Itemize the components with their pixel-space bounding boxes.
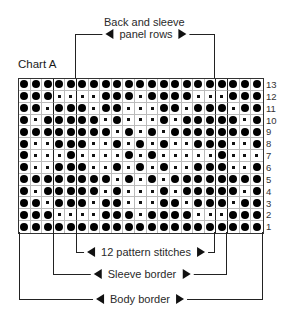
filled-circle-icon — [90, 116, 98, 124]
dash-icon — [34, 166, 37, 169]
filled-circle-icon — [241, 199, 249, 207]
stitch-cell — [205, 209, 217, 221]
arrow-left-icon — [105, 29, 113, 39]
stitch-cell — [193, 91, 205, 103]
filled-circle-icon — [125, 80, 133, 88]
filled-circle-icon — [102, 128, 110, 136]
stitch-cell — [42, 197, 54, 209]
filled-circle-icon — [148, 175, 156, 183]
stitch-cell — [100, 162, 112, 174]
stitch-cell — [123, 138, 135, 150]
stitch-cell — [205, 126, 217, 138]
dash-icon — [92, 154, 95, 157]
dash-icon — [104, 190, 107, 193]
filled-circle-icon — [125, 211, 133, 219]
dash-icon — [34, 118, 37, 121]
filled-circle-icon — [148, 151, 156, 159]
stitch-cell — [158, 150, 170, 162]
dash-icon — [34, 190, 37, 193]
filled-circle-icon — [171, 175, 179, 183]
stitch-cell — [193, 103, 205, 115]
filled-circle-icon — [218, 151, 226, 159]
stitch-cell — [193, 209, 205, 221]
stitch-cell — [182, 209, 194, 221]
stitch-cell — [170, 103, 182, 115]
stitch-cell — [251, 126, 263, 138]
stitch-cell — [228, 174, 240, 186]
stitch-cell — [205, 197, 217, 209]
arrow-left-icon — [87, 247, 95, 257]
stitch-cell — [100, 115, 112, 127]
filled-circle-icon — [171, 92, 179, 100]
filled-circle-icon — [55, 104, 63, 112]
stitch-cell — [100, 209, 112, 221]
stitch-cell — [251, 103, 263, 115]
filled-circle-icon — [125, 128, 133, 136]
stitch-cell — [205, 91, 217, 103]
dash-icon — [116, 130, 119, 133]
dash-icon — [69, 213, 72, 216]
dash-icon — [92, 213, 95, 216]
stitch-cell — [147, 221, 159, 233]
panel-bracket-left-line — [75, 34, 76, 78]
filled-circle-icon — [206, 223, 214, 231]
filled-circle-icon — [125, 151, 133, 159]
stitch-cell — [228, 126, 240, 138]
dash-icon — [174, 118, 177, 121]
filled-circle-icon — [148, 223, 156, 231]
stitch-cell — [65, 174, 77, 186]
stitch-cell — [54, 138, 66, 150]
dash-icon — [46, 154, 49, 157]
stitch-cell — [216, 174, 228, 186]
filled-circle-icon — [78, 128, 86, 136]
filled-circle-icon — [78, 223, 86, 231]
stitch-cell — [228, 138, 240, 150]
stitch-cell — [158, 79, 170, 91]
stitch-cell — [77, 79, 89, 91]
arrow-right-icon — [182, 269, 190, 279]
stitch-cell — [123, 103, 135, 115]
stitch-cell — [123, 162, 135, 174]
dash-icon — [232, 142, 235, 145]
filled-circle-icon — [20, 151, 28, 159]
filled-circle-icon — [78, 175, 86, 183]
filled-circle-icon — [90, 80, 98, 88]
stitch-cell — [19, 79, 31, 91]
dash-icon — [116, 154, 119, 157]
filled-circle-icon — [32, 223, 40, 231]
stitch-cell — [77, 91, 89, 103]
stitch-cell — [31, 150, 43, 162]
stitch-cell — [100, 103, 112, 115]
filled-circle-icon — [55, 163, 63, 171]
stitch-cell — [31, 209, 43, 221]
filled-circle-icon — [90, 223, 98, 231]
stitch-cell — [193, 221, 205, 233]
stitch-cell — [228, 197, 240, 209]
filled-circle-icon — [194, 187, 202, 195]
filled-circle-icon — [44, 187, 52, 195]
stitch-cell — [240, 221, 252, 233]
dash-icon — [139, 107, 142, 110]
filled-circle-icon — [148, 128, 156, 136]
filled-circle-icon — [241, 80, 249, 88]
stitch-cell — [112, 103, 124, 115]
filled-circle-icon — [218, 163, 226, 171]
filled-circle-icon — [241, 223, 249, 231]
stitch-cell — [216, 126, 228, 138]
filled-circle-icon — [55, 223, 63, 231]
dash-icon — [209, 95, 212, 98]
filled-circle-icon — [102, 199, 110, 207]
filled-circle-icon — [183, 116, 191, 124]
filled-circle-icon — [194, 223, 202, 231]
stitch-cell — [251, 186, 263, 198]
dash-icon — [139, 178, 142, 181]
stitch-cell — [89, 186, 101, 198]
filled-circle-icon — [44, 80, 52, 88]
stitch-cell — [193, 126, 205, 138]
stitch-cell — [65, 79, 77, 91]
stitch-cell — [216, 79, 228, 91]
stitch-cell — [228, 103, 240, 115]
filled-circle-icon — [194, 163, 202, 171]
filled-circle-icon — [253, 128, 261, 136]
sleeve-border-label: Sleeve border — [108, 268, 177, 280]
